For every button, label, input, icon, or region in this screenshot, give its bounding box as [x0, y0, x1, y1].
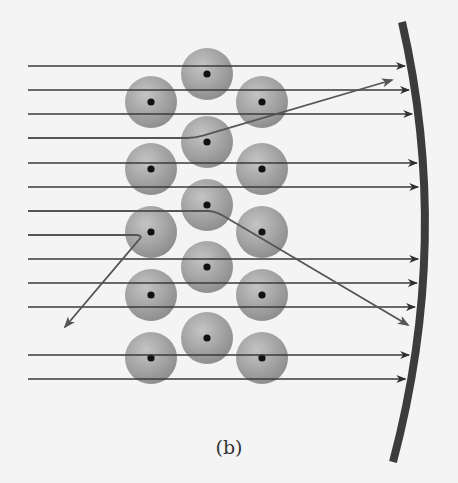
nucleus-dot	[203, 70, 210, 77]
detector-screen	[393, 22, 425, 462]
gold-atom	[181, 241, 233, 293]
gold-atoms-layer	[125, 48, 288, 384]
gold-atom	[125, 332, 177, 384]
nucleus-dot	[147, 228, 154, 235]
gold-atom	[181, 312, 233, 364]
nucleus-dot	[203, 263, 210, 270]
nucleus-dot	[258, 228, 265, 235]
figure-caption: (b)	[0, 436, 458, 458]
nucleus-dot	[147, 98, 154, 105]
nucleus-dot	[203, 201, 210, 208]
nucleus-dot	[258, 98, 265, 105]
gold-atom	[125, 206, 177, 258]
nucleus-dot	[203, 334, 210, 341]
nucleus-dot	[258, 165, 265, 172]
nucleus-dot	[147, 291, 154, 298]
nucleus-dot	[258, 291, 265, 298]
gold-atom	[125, 269, 177, 321]
gold-atom	[181, 48, 233, 100]
gold-atom	[181, 116, 233, 168]
gold-atom	[236, 76, 288, 128]
gold-atom	[236, 269, 288, 321]
gold-atom	[236, 332, 288, 384]
nucleus-dot	[203, 138, 210, 145]
deflected-ray-arrow	[28, 235, 141, 327]
scattering-diagram	[0, 0, 458, 483]
gold-atom	[125, 76, 177, 128]
nucleus-dot	[147, 165, 154, 172]
